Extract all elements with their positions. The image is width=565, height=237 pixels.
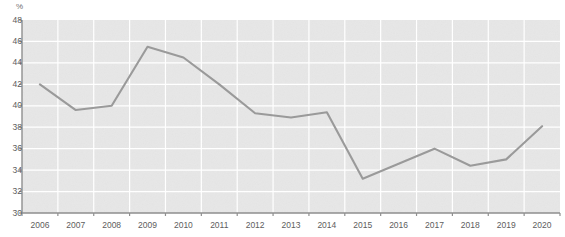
x-axis-tick-label: 2017 xyxy=(414,220,454,230)
y-axis-tick-label: 38 xyxy=(0,123,22,132)
x-axis-tick-label: 2011 xyxy=(199,220,239,230)
x-axis-tick-label: 2006 xyxy=(20,220,60,230)
x-axis-tick-label: 2010 xyxy=(163,220,203,230)
x-axis-tick-label: 2018 xyxy=(450,220,490,230)
x-axis-tick-label: 2014 xyxy=(307,220,347,230)
y-axis-tick-label: 30 xyxy=(0,209,22,218)
x-axis-tick-label: 2015 xyxy=(343,220,383,230)
x-axis-tick-label: 2012 xyxy=(235,220,275,230)
x-axis-tick-label: 2020 xyxy=(522,220,562,230)
y-axis-tick-label: 46 xyxy=(0,37,22,46)
y-axis-tick-label: 44 xyxy=(0,58,22,67)
x-axis-tick-label: 2009 xyxy=(128,220,168,230)
plot-texture xyxy=(22,20,560,213)
x-axis-tick-label: 2013 xyxy=(271,220,311,230)
y-axis-tick-label: 36 xyxy=(0,144,22,153)
y-axis-tick-label: 40 xyxy=(0,101,22,110)
y-axis-tick-label: 32 xyxy=(0,187,22,196)
plot-area xyxy=(0,0,565,237)
x-axis-tick-label: 2019 xyxy=(486,220,526,230)
x-axis-tick-label: 2008 xyxy=(92,220,132,230)
y-axis-tick-label: 42 xyxy=(0,80,22,89)
x-axis-tick-label: 2007 xyxy=(56,220,96,230)
x-axis-tick-label: 2016 xyxy=(379,220,419,230)
line-chart: % 48464442403836343230 20062007200820092… xyxy=(0,0,565,237)
y-axis-tick-label: 48 xyxy=(0,16,22,25)
y-axis-tick-label: 34 xyxy=(0,166,22,175)
